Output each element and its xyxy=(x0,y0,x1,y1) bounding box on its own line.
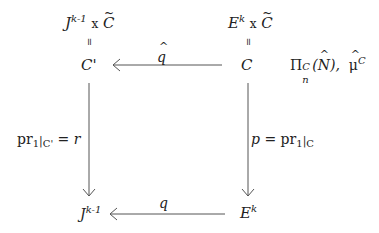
node-base: E xyxy=(228,14,239,32)
node-base: E xyxy=(240,204,251,222)
p-text: p xyxy=(251,131,260,147)
right-arrow-label: p = pr1|C xyxy=(251,132,314,146)
equals-top-left: = xyxy=(84,38,94,46)
node-bottom-left: Jk-1 xyxy=(80,207,101,221)
pi-subscript: n xyxy=(302,75,308,85)
node-prime: ' xyxy=(92,56,96,74)
pi-superscript: C xyxy=(302,62,310,72)
node-factor-tilde: C xyxy=(261,16,272,31)
mu-hat: μ xyxy=(349,58,358,72)
node-exponent: k xyxy=(239,13,245,24)
node-base: J xyxy=(80,206,86,222)
pr-text: pr xyxy=(17,131,33,147)
n-hat: N xyxy=(318,58,330,72)
left-arrow-label: pr1|C' = r xyxy=(17,132,80,146)
times-symbol: x xyxy=(91,17,98,31)
node-exponent: k xyxy=(251,203,257,214)
arrows-layer xyxy=(0,0,379,233)
times-symbol: x xyxy=(250,17,257,31)
node-base: C xyxy=(241,56,252,74)
equals-top-right: = xyxy=(243,38,253,46)
top-arrow-label: q xyxy=(157,50,166,64)
node-bottom-right: Ek xyxy=(240,206,257,221)
node-top-right-product: Ek x C xyxy=(228,16,273,31)
node-top-right: C xyxy=(241,58,252,73)
eq-pr-text: = pr xyxy=(264,131,296,147)
rhs-text: = r xyxy=(58,131,81,147)
node-factor-tilde: C xyxy=(103,16,114,31)
restrict-set: C' xyxy=(43,138,53,149)
node-top-left: C' xyxy=(81,58,97,73)
mu-superscript: C xyxy=(358,55,366,66)
subscript: 1 xyxy=(296,138,302,149)
node-top-left-product: Jk-1 x C xyxy=(65,16,114,31)
bottom-arrow-label: q xyxy=(159,196,168,210)
top-arrow xyxy=(113,59,222,71)
side-annotation: ΠCn(N), μC xyxy=(290,58,366,72)
left-arrow xyxy=(83,83,95,196)
pi-symbol: Π xyxy=(290,57,302,73)
restrict-set: C xyxy=(306,138,314,149)
node-base: C xyxy=(81,56,92,74)
subscript: 1 xyxy=(33,138,39,149)
node-exponent: k-1 xyxy=(86,204,102,215)
paren-close: ), xyxy=(330,57,340,73)
node-exponent: k-1 xyxy=(71,13,87,24)
